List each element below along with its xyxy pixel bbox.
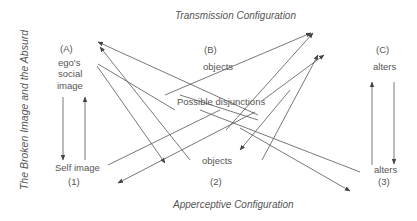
- column-a-bottom-number: (1): [68, 176, 80, 187]
- arrow-to-top-right-2: [262, 55, 318, 160]
- arrow-to-top-right-1: [165, 33, 311, 95]
- top-title: Transmission Configuration: [175, 10, 296, 21]
- column-a-top-label-line3: image: [57, 80, 83, 91]
- column-c-bottom-label: alters: [374, 164, 397, 175]
- connector-lines: [0, 0, 417, 221]
- column-a-bottom-label: Self image: [55, 162, 100, 173]
- diagram-canvas: The Broken Image and the Absurd Transmis…: [0, 0, 417, 221]
- bottom-title: Apperceptive Configuration: [173, 199, 294, 210]
- column-b-bottom-label: objects: [202, 155, 232, 166]
- column-a-top-label-line1: ego's: [58, 57, 80, 68]
- column-c-bottom-number: (3): [378, 176, 390, 187]
- column-c-header: (C): [376, 44, 389, 55]
- column-b-bottom-number: (2): [210, 176, 222, 187]
- column-a-header: (A): [60, 43, 73, 54]
- side-title: The Broken Image and the Absurd: [18, 30, 30, 190]
- column-a-top-label-line2: social: [58, 68, 82, 79]
- center-label: Possible disjunctions: [177, 96, 265, 107]
- column-b-header: (B): [204, 44, 217, 55]
- column-c-top-label: alters: [373, 61, 396, 72]
- column-b-top-label: objects: [203, 61, 233, 72]
